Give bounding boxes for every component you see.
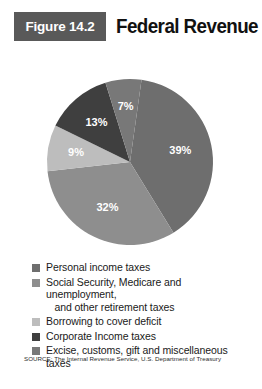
figure-header: Figure 14.2 Federal Revenue xyxy=(0,8,262,46)
legend-label: Borrowing to cover deficit xyxy=(46,315,161,328)
pie-chart-svg: 39%32%9%13%7% xyxy=(0,48,262,258)
legend-swatch-icon xyxy=(32,347,40,355)
legend-label: Corporate Income taxes xyxy=(46,330,156,343)
legend: Personal income taxesSocial Security, Me… xyxy=(32,261,254,370)
pie-slice-label: 39% xyxy=(169,144,191,156)
source-note: SOURCE: The Internal Revenue Service, U.… xyxy=(24,355,221,362)
legend-swatch-icon xyxy=(32,333,40,341)
pie-slice-label: 9% xyxy=(68,146,84,158)
legend-item: Personal income taxes xyxy=(32,261,254,274)
legend-swatch-icon xyxy=(32,318,40,326)
legend-item: Corporate Income taxes xyxy=(32,330,254,343)
pie-slice-label: 13% xyxy=(85,116,107,128)
legend-label: Personal income taxes xyxy=(46,261,150,274)
legend-label: Social Security, Medicare and unemployme… xyxy=(46,276,254,314)
pie-chart: 39%32%9%13%7% xyxy=(0,48,262,258)
pie-slice-label: 32% xyxy=(96,201,118,213)
legend-swatch-icon xyxy=(32,279,40,287)
legend-item: Social Security, Medicare and unemployme… xyxy=(32,276,254,314)
figure-number-badge: Figure 14.2 xyxy=(14,12,106,41)
figure-number-label: Figure 14.2 xyxy=(25,19,94,34)
figure-card: Figure 14.2 Federal Revenue 39%32%9%13%7… xyxy=(0,0,262,370)
pie-slice-label: 7% xyxy=(118,100,134,112)
page-title: Federal Revenue xyxy=(116,12,258,41)
legend-item: Borrowing to cover deficit xyxy=(32,315,254,328)
legend-swatch-icon xyxy=(32,264,40,272)
